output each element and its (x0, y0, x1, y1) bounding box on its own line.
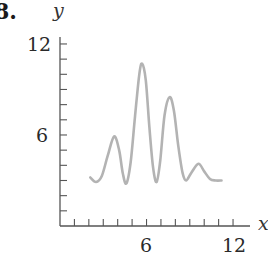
data-curve (90, 63, 221, 183)
line-chart (0, 0, 268, 257)
axis-ticks (60, 44, 233, 226)
axes (60, 37, 250, 226)
